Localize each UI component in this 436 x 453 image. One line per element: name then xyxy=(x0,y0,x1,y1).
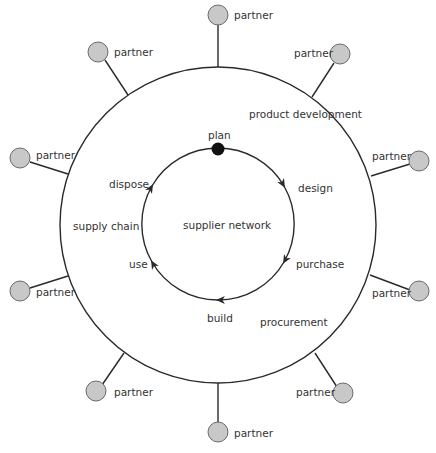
partner-node-icon xyxy=(330,44,350,64)
partner-bottom-right[interactable]: partner xyxy=(296,383,353,403)
spoke-bottom-left xyxy=(102,353,124,385)
spoke-right-upper xyxy=(371,164,410,176)
partner-node-icon xyxy=(86,381,106,401)
partner-right-upper[interactable]: partner xyxy=(372,150,429,171)
partner-label: partner xyxy=(296,386,336,398)
spoke-top-left xyxy=(105,60,128,95)
step-build: build xyxy=(207,312,233,324)
arrow-use-to-dispose xyxy=(142,186,152,262)
supplier-network-diagram: partner partner partner partner partner … xyxy=(0,0,436,453)
step-plan: plan xyxy=(208,129,231,141)
partner-label: partner xyxy=(114,386,154,398)
partner-top-right[interactable]: partner xyxy=(294,44,350,64)
partner-right-lower[interactable]: partner xyxy=(372,281,429,301)
center-label-supplier-network: supplier network xyxy=(183,219,272,231)
label-supply-chain: supply chain xyxy=(73,220,139,232)
partner-label: partner xyxy=(294,47,334,59)
label-product-development: product development xyxy=(249,108,362,120)
partner-bottom[interactable]: partner xyxy=(208,422,274,442)
partner-label: partner xyxy=(372,287,412,299)
arrow-plan-to-design xyxy=(218,148,284,186)
partner-label: partner xyxy=(234,9,274,21)
partner-bottom-left[interactable]: partner xyxy=(86,381,154,401)
spoke-bottom-right xyxy=(315,353,337,387)
partner-label: partner xyxy=(114,46,154,58)
step-use: use xyxy=(129,258,148,270)
partner-left-upper[interactable]: partner xyxy=(10,148,76,168)
partner-node-icon xyxy=(409,281,429,301)
arrow-build-to-use xyxy=(152,262,218,300)
partner-label: partner xyxy=(372,150,412,162)
spoke-left-upper xyxy=(30,162,68,174)
arrow-design-to-purchase xyxy=(284,186,294,262)
partner-label: partner xyxy=(36,149,76,161)
partner-node-icon xyxy=(208,5,228,25)
partner-label: partner xyxy=(36,286,76,298)
partner-label: partner xyxy=(234,427,274,439)
partner-top-left[interactable]: partner xyxy=(88,42,154,62)
partner-node-icon xyxy=(409,151,429,171)
step-design: design xyxy=(298,182,333,194)
partner-node-icon xyxy=(333,383,353,403)
partner-node-icon xyxy=(10,148,30,168)
partner-node-icon xyxy=(208,422,228,442)
label-procurement: procurement xyxy=(260,316,328,328)
partner-node-icon xyxy=(10,281,30,301)
partner-top[interactable]: partner xyxy=(208,5,274,25)
start-dot-icon xyxy=(212,143,225,156)
arrow-purchase-to-build xyxy=(218,262,284,300)
spoke-top-right xyxy=(312,63,334,97)
step-purchase: purchase xyxy=(296,258,344,270)
step-dispose: dispose xyxy=(109,178,149,190)
partner-node-icon xyxy=(88,42,108,62)
arc-dispose-to-plan xyxy=(152,148,218,186)
